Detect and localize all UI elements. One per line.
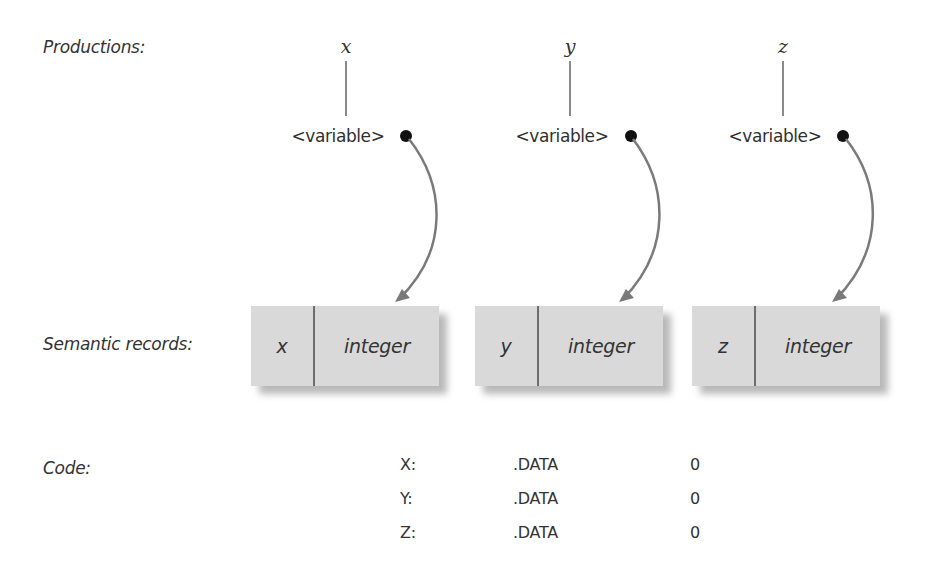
code-value: 0	[690, 523, 700, 542]
arrow-y-icon	[622, 139, 659, 300]
semantic-record-y: y integer	[475, 306, 663, 386]
code-directive: .DATA	[513, 455, 558, 474]
code-label-y: Y:	[400, 489, 412, 508]
code-value: 0	[690, 489, 700, 508]
arrow-z-icon	[835, 139, 873, 300]
code-label-x: X:	[400, 455, 416, 474]
semantic-action-arrows	[0, 0, 926, 584]
record-name: x	[251, 306, 315, 386]
semantic-record-x: x integer	[251, 306, 439, 386]
code-directive: .DATA	[513, 523, 558, 542]
record-type: integer	[315, 306, 439, 386]
semantic-record-z: z integer	[692, 306, 880, 386]
record-name: y	[475, 306, 539, 386]
code-label-z: Z:	[400, 523, 416, 542]
code-directive: .DATA	[513, 489, 558, 508]
arrow-x-icon	[398, 139, 437, 300]
record-type: integer	[756, 306, 880, 386]
record-name: z	[692, 306, 756, 386]
code-value: 0	[690, 455, 700, 474]
record-type: integer	[539, 306, 663, 386]
